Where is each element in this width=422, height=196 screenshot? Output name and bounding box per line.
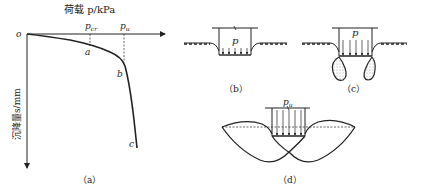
- pressure-arrows: [277, 110, 301, 135]
- slip-surface-left: [222, 127, 305, 162]
- tick-pcr: pcr: [85, 21, 98, 32]
- diagram-canvas: 荷载 p/kPa o pcr pu a b c 沉降量s/mm （a）: [0, 0, 422, 196]
- pressure-arrows: [343, 40, 368, 55]
- y-axis-label: 沉降量s/mm: [11, 88, 22, 140]
- panel-d-general-shear-failure: pu （d）: [222, 97, 355, 185]
- plastic-zone-left: [332, 57, 346, 80]
- panel-c-local-shear-stage: p （c）: [302, 27, 407, 94]
- point-b-label: b: [117, 69, 123, 79]
- heave-left: [222, 122, 272, 134]
- panel-a-load-settlement-curve: 荷载 p/kPa o pcr pu a b c 沉降量s/mm （a）: [11, 4, 165, 185]
- tick-pu: pu: [120, 21, 130, 32]
- point-a-label: a: [85, 47, 90, 57]
- load-label-c: p: [352, 27, 359, 38]
- panel-b-compression-stage: p （b）: [184, 26, 287, 94]
- plastic-zone-right: [364, 57, 375, 80]
- load-label-d: pu: [283, 97, 293, 108]
- x-axis-label: 荷载 p/kPa: [64, 4, 115, 15]
- origin-label: o: [16, 29, 22, 39]
- point-c-label: c: [129, 139, 134, 149]
- caption-a: （a）: [78, 175, 101, 185]
- heave-right: [305, 120, 355, 134]
- pressure-arrows: [223, 48, 247, 54]
- caption-b: （b）: [224, 84, 248, 94]
- settlement-curve: [27, 34, 137, 148]
- caption-c: （c）: [342, 84, 365, 94]
- caption-d: （d）: [278, 175, 302, 185]
- load-label-b: p: [232, 35, 239, 46]
